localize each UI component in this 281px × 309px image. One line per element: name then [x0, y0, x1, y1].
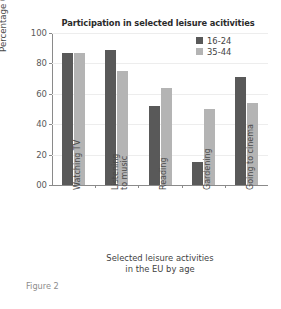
y-axis-tick-mark	[49, 124, 52, 125]
y-axis-title: Percentage 0-100	[0, 0, 8, 52]
y-axis-tick-mark	[49, 33, 52, 34]
bar	[149, 106, 160, 185]
y-axis-tick-label: 40	[36, 119, 47, 129]
gridline	[52, 33, 268, 34]
x-axis-tick-mark	[182, 185, 183, 188]
x-axis-category-label-line: Gardening	[203, 148, 212, 190]
x-axis-category-label-line: Listening	[111, 154, 120, 190]
bar	[62, 53, 73, 185]
x-axis-tick-mark	[138, 185, 139, 188]
x-axis-title: Selected leisure activities in the EU by…	[52, 253, 268, 275]
figure-caption: Figure 2	[26, 281, 59, 291]
x-axis-category-label-line: Reading	[159, 158, 168, 190]
bar	[235, 77, 246, 185]
figure-container: Participation in selected leisure acitiv…	[0, 0, 281, 309]
legend-swatch	[196, 48, 203, 55]
legend-swatch	[196, 37, 203, 44]
legend-item: 35-44	[196, 46, 231, 57]
x-axis-category-label-line: to music	[121, 154, 130, 190]
legend-item: 16-24	[196, 35, 231, 46]
legend-label: 35-44	[207, 47, 231, 57]
y-axis-tick-label: 00	[36, 180, 47, 190]
y-axis-tick-label: 100	[31, 28, 47, 38]
y-axis-tick-mark	[49, 155, 52, 156]
y-axis-tick-mark	[49, 63, 52, 64]
chart-title: Participation in selected leisure acitiv…	[40, 18, 276, 28]
y-axis-tick-label: 20	[36, 150, 47, 160]
y-axis-tick-mark	[49, 94, 52, 95]
x-axis-category-label: Reading	[159, 158, 168, 190]
y-axis-tick-label: 60	[36, 89, 47, 99]
bar	[192, 162, 203, 185]
legend-label: 16-24	[207, 36, 231, 46]
x-axis-tick-mark	[95, 185, 96, 188]
y-axis-tick-mark	[49, 185, 52, 186]
x-axis-category-label-line: Going to cinema	[246, 124, 255, 190]
x-axis-category-label: Gardening	[203, 148, 212, 190]
x-axis-title-line-2: in the EU by age	[52, 264, 268, 275]
chart-legend: 16-2435-44	[196, 35, 231, 57]
x-axis-category-label: Listeningto music	[111, 154, 130, 190]
y-axis-tick-label: 80	[36, 58, 47, 68]
x-axis-category-label: Going to cinema	[246, 124, 255, 190]
x-axis-tick-mark	[225, 185, 226, 188]
x-axis-category-label: Watching TV	[73, 140, 82, 190]
x-axis-category-label-line: Watching TV	[73, 140, 82, 190]
x-axis-title-line-1: Selected leisure activities	[52, 253, 268, 264]
